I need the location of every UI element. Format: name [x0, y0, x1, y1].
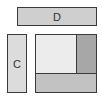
- composite-top-right-panel: [77, 35, 96, 74]
- block-d: D: [17, 7, 97, 26]
- composite-block: [35, 34, 97, 93]
- composite-bottom-panel: [36, 74, 96, 92]
- composite-top-left-panel: [36, 35, 77, 74]
- block-c-label: C: [8, 58, 26, 69]
- block-d-label: D: [18, 11, 96, 22]
- block-c: C: [7, 34, 27, 93]
